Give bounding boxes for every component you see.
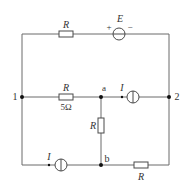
top-resistor [59, 31, 73, 37]
node-2-label: 2 [175, 91, 180, 102]
current-source-ab-arrow-icon [121, 96, 123, 98]
node-1 [20, 95, 24, 99]
middle-resistor-label: R [62, 82, 69, 93]
top-resistor-label: R [62, 19, 69, 30]
bottom-resistor-label: R [137, 171, 144, 182]
middle-resistor-value: 5Ω [60, 102, 72, 112]
vertical-resistor-label: R [89, 120, 96, 131]
node-1-label: 1 [13, 91, 18, 102]
node-2 [167, 95, 171, 99]
bottom-resistor [134, 162, 148, 168]
node-b [99, 163, 103, 167]
middle-resistor [59, 94, 73, 100]
voltage-plus-sign: + [106, 22, 111, 32]
current-source-ab-label: I [119, 82, 124, 93]
vertical-resistor [98, 118, 104, 133]
node-a-label: a [102, 83, 106, 93]
node-b-label: b [105, 153, 110, 164]
circuit-diagram: R E + − R 5Ω I R I R 1 2 a b [0, 0, 189, 186]
voltage-source-label: E [116, 13, 123, 24]
current-source-bottom-arrow-icon [48, 164, 50, 166]
node-a [99, 95, 103, 99]
voltage-minus-sign: − [127, 22, 132, 32]
current-source-bottom-label: I [46, 151, 51, 162]
